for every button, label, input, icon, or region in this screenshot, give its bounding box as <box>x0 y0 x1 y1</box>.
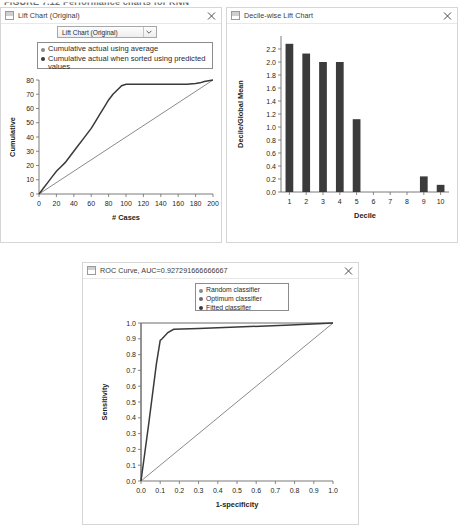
svg-text:1: 1 <box>287 198 291 205</box>
svg-text:40: 40 <box>70 200 78 207</box>
svg-text:2.2: 2.2 <box>266 46 276 53</box>
svg-text:180: 180 <box>190 200 202 207</box>
legend-label: Cumulative actual when sorted using pred… <box>48 55 208 72</box>
legend-marker-icon <box>41 57 45 61</box>
lift-chart-legend: Cumulative actual using average Cumulati… <box>37 42 213 69</box>
svg-text:20: 20 <box>53 200 61 207</box>
roc-chart-title: ROC Curve, AUC=0.927291666666667 <box>100 266 228 275</box>
svg-text:140: 140 <box>155 200 167 207</box>
svg-text:70: 70 <box>26 91 34 98</box>
svg-text:30: 30 <box>26 148 34 155</box>
legend-item: Cumulative actual using average <box>41 45 208 54</box>
svg-text:8: 8 <box>405 198 409 205</box>
svg-text:200: 200 <box>207 200 219 207</box>
svg-text:50: 50 <box>26 119 34 126</box>
svg-text:0.5: 0.5 <box>232 487 242 494</box>
svg-text:0.3: 0.3 <box>194 487 204 494</box>
roc-chart-legend: Random classifier Optimum classifier Fit… <box>195 283 289 311</box>
svg-text:1.8: 1.8 <box>266 72 276 79</box>
svg-text:0.2: 0.2 <box>266 176 276 183</box>
svg-text:0.0: 0.0 <box>126 478 136 485</box>
close-icon[interactable] <box>344 266 353 275</box>
chevron-down-icon[interactable] <box>143 27 154 37</box>
svg-text:Sensitivity: Sensitivity <box>100 383 109 421</box>
svg-text:0.1: 0.1 <box>155 487 165 494</box>
roc-chart-titlebar: ROC Curve, AUC=0.927291666666667 <box>83 263 358 279</box>
svg-text:0.2: 0.2 <box>175 487 185 494</box>
svg-text:0.7: 0.7 <box>126 367 136 374</box>
svg-text:9: 9 <box>422 198 426 205</box>
legend-item: Random classifier <box>199 286 284 294</box>
svg-text:0.2: 0.2 <box>126 446 136 453</box>
svg-text:1.4: 1.4 <box>266 98 276 105</box>
svg-text:6: 6 <box>371 198 375 205</box>
svg-text:10: 10 <box>26 176 34 183</box>
svg-text:0.8: 0.8 <box>266 137 276 144</box>
legend-item: Optimum classifier <box>199 295 284 303</box>
svg-text:0.7: 0.7 <box>271 487 281 494</box>
svg-text:0.3: 0.3 <box>126 430 136 437</box>
window-icon <box>5 11 14 20</box>
lift-chart-window: Lift Chart (Original) Lift Chart (Origin… <box>0 7 222 243</box>
svg-text:0.1: 0.1 <box>126 462 136 469</box>
svg-text:160: 160 <box>172 200 184 207</box>
svg-text:20: 20 <box>26 162 34 169</box>
decile-chart-titlebar: Decile-wise Lift Chart <box>227 8 457 24</box>
svg-text:100: 100 <box>120 200 132 207</box>
svg-text:Decile/Global Mean: Decile/Global Mean <box>236 80 245 148</box>
svg-text:Decile: Decile <box>354 211 376 220</box>
svg-text:120: 120 <box>138 200 150 207</box>
legend-label: Optimum classifier <box>206 295 262 303</box>
decile-chart-title: Decile-wise Lift Chart <box>244 11 313 20</box>
legend-marker-icon <box>199 289 203 293</box>
svg-text:Cumulative: Cumulative <box>8 117 17 157</box>
svg-text:0.0: 0.0 <box>266 189 276 196</box>
svg-text:2.0: 2.0 <box>266 59 276 66</box>
legend-marker-icon <box>41 48 45 52</box>
svg-text:0.8: 0.8 <box>290 487 300 494</box>
svg-text:60: 60 <box>26 105 34 112</box>
legend-item: Fitted classifier <box>199 304 284 312</box>
svg-text:0.9: 0.9 <box>126 335 136 342</box>
svg-text:2: 2 <box>304 198 308 205</box>
svg-text:1.0: 1.0 <box>328 487 338 494</box>
svg-text:# Cases: # Cases <box>112 213 140 222</box>
svg-text:80: 80 <box>26 77 34 84</box>
legend-item: Cumulative actual when sorted using pred… <box>41 55 208 72</box>
svg-text:4: 4 <box>338 198 342 205</box>
svg-text:0.8: 0.8 <box>126 351 136 358</box>
lift-chart-plot: 0102030405060708002040608010012014016018… <box>1 72 223 242</box>
svg-text:0.0: 0.0 <box>136 487 146 494</box>
lift-chart-body: Lift Chart (Original) Cumulative actual … <box>1 24 221 242</box>
decile-chart-plot: 0.00.20.40.60.81.01.21.41.61.82.02.21234… <box>227 24 458 243</box>
lift-chart-titlebar: Lift Chart (Original) <box>1 8 221 24</box>
svg-text:0.6: 0.6 <box>126 383 136 390</box>
window-icon <box>231 11 240 20</box>
chart-type-dropdown[interactable]: Lift Chart (Original) <box>57 26 157 38</box>
svg-text:0: 0 <box>30 191 34 198</box>
svg-text:1.2: 1.2 <box>266 111 276 118</box>
svg-text:0.6: 0.6 <box>266 150 276 157</box>
svg-text:0.5: 0.5 <box>126 399 136 406</box>
svg-text:40: 40 <box>26 134 34 141</box>
svg-text:1.0: 1.0 <box>266 124 276 131</box>
roc-chart-body: Random classifier Optimum classifier Fit… <box>83 279 358 524</box>
legend-marker-icon <box>199 306 203 310</box>
close-icon[interactable] <box>207 11 216 20</box>
svg-text:60: 60 <box>87 200 95 207</box>
svg-text:0.9: 0.9 <box>309 487 319 494</box>
decile-chart-body: 0.00.20.40.60.81.01.21.41.61.82.02.21234… <box>227 24 457 242</box>
close-icon[interactable] <box>443 11 452 20</box>
legend-label: Fitted classifier <box>206 304 251 312</box>
svg-text:5: 5 <box>355 198 359 205</box>
svg-text:1.6: 1.6 <box>266 85 276 92</box>
legend-label: Random classifier <box>206 286 260 294</box>
svg-text:7: 7 <box>388 198 392 205</box>
svg-text:0.4: 0.4 <box>213 487 223 494</box>
svg-text:3: 3 <box>321 198 325 205</box>
legend-label: Cumulative actual using average <box>48 45 158 54</box>
svg-text:10: 10 <box>437 198 445 205</box>
svg-text:1-specificity: 1-specificity <box>216 500 260 509</box>
svg-text:0.6: 0.6 <box>251 487 261 494</box>
figure-caption: FIGURE 7.12 Performance charts for KNN <box>4 0 189 7</box>
